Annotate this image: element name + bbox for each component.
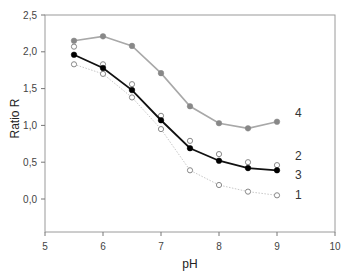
series-label-3: 3	[295, 168, 302, 182]
y-tick-label: 1,0	[23, 120, 37, 131]
x-tick-label: 5	[42, 241, 48, 252]
data-point	[129, 43, 135, 49]
data-point	[216, 152, 221, 157]
data-point	[274, 193, 279, 198]
x-tick-label: 8	[216, 241, 222, 252]
y-tick-label: 0,5	[23, 157, 37, 168]
data-point	[158, 117, 164, 123]
data-point	[245, 189, 250, 194]
data-point	[245, 126, 251, 132]
x-tick-label: 7	[158, 241, 164, 252]
data-point	[245, 160, 250, 165]
data-point	[274, 163, 279, 168]
data-point	[187, 103, 193, 109]
data-point	[129, 95, 134, 100]
y-tick-label: 2,5	[23, 10, 37, 21]
y-tick-label: 2,0	[23, 46, 37, 57]
data-point	[245, 165, 251, 171]
axes: 0,00,51,01,52,02,55678910	[23, 10, 341, 253]
x-axis-title: pH	[182, 257, 197, 271]
data-point	[71, 52, 77, 58]
series-layer	[71, 34, 280, 198]
data-point	[100, 71, 105, 76]
x-tick-label: 9	[274, 241, 280, 252]
data-point	[129, 87, 135, 93]
data-point	[216, 120, 222, 126]
data-point	[158, 70, 164, 76]
y-tick-label: 1,5	[23, 83, 37, 94]
data-point	[71, 44, 76, 49]
series-line	[74, 36, 277, 128]
x-tick-label: 6	[100, 241, 106, 252]
data-point	[216, 158, 222, 164]
data-point	[187, 168, 192, 173]
series-4	[71, 34, 280, 132]
data-point	[158, 126, 163, 131]
data-point	[71, 62, 76, 67]
data-point	[100, 65, 106, 71]
data-point	[100, 34, 106, 40]
plot-frame	[45, 15, 335, 232]
chart: 0,00,51,01,52,02,55678910 1234 pH Ratio …	[0, 0, 348, 275]
data-point	[274, 119, 280, 125]
series-label-4: 4	[295, 106, 302, 120]
x-tick-label: 10	[329, 241, 341, 252]
y-axis-title: Ratio R	[8, 98, 22, 138]
data-point	[71, 38, 77, 44]
series-label-1: 1	[295, 188, 302, 202]
series-label-2: 2	[295, 149, 302, 163]
data-point	[187, 138, 192, 143]
series-labels: 1234	[295, 106, 302, 203]
y-tick-label: 0,0	[23, 194, 37, 205]
series-3	[71, 52, 280, 173]
data-point	[216, 182, 221, 187]
data-point	[129, 82, 134, 87]
data-point	[274, 167, 280, 173]
data-point	[187, 145, 193, 151]
